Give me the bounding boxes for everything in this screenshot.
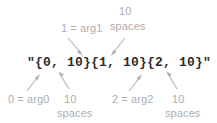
label-bottom-spaces1-word: spaces (57, 107, 92, 119)
label-arg0: 0 = arg0 (8, 93, 49, 105)
label-bottom-spaces2-word: spaces (165, 107, 200, 119)
arrow-arg1-to-string (68, 38, 83, 56)
arrow-arg2-to-string (129, 74, 142, 91)
label-bottom-spaces2-number: 10 (172, 93, 184, 105)
format-string-text: "{0, 10}{1, 10}{2, 10}" (27, 55, 211, 70)
label-top-spaces-word: spaces (110, 20, 145, 32)
arrow-top-spaces-to-string (111, 38, 125, 56)
format-string-annotation-diagram: 1 = arg1 10 spaces "{0, 10}{1, 10}{2, 10… (0, 0, 217, 123)
label-arg1: 1 = arg1 (61, 22, 102, 34)
label-top-spaces-number: 10 (119, 5, 131, 17)
arrow-arg0-to-string (27, 74, 40, 91)
arrow-string-to-bottom-spaces1 (58, 71, 69, 89)
arrow-string-to-bottom-spaces2 (166, 71, 177, 89)
label-arg2: 2 = arg2 (112, 93, 153, 105)
label-bottom-spaces1-number: 10 (64, 93, 76, 105)
